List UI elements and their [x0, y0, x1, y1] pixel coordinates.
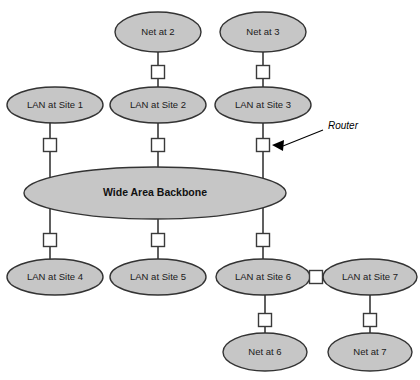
- node-net-at-6[interactable]: Net at 6: [223, 333, 307, 371]
- node-lan-at-site-7[interactable]: LAN at Site 7: [323, 259, 417, 295]
- net-at-3-label: Net at 3: [246, 26, 279, 37]
- network-diagram-canvas: Wide Area BackboneNet at 2Net at 3LAN at…: [0, 0, 420, 380]
- net-at-6-label: Net at 6: [248, 346, 281, 357]
- router-net2-lan2-icon[interactable]: [152, 66, 165, 79]
- node-lan-at-site-2[interactable]: LAN at Site 2: [110, 87, 206, 123]
- router-lan3-backbone-icon[interactable]: [257, 139, 270, 152]
- node-net-at-2[interactable]: Net at 2: [115, 12, 201, 52]
- router-lan6-net6-icon[interactable]: [259, 314, 272, 327]
- node-net-at-7[interactable]: Net at 7: [328, 333, 412, 371]
- net-at-2-label: Net at 2: [141, 26, 174, 37]
- node-lan-at-site-1[interactable]: LAN at Site 1: [7, 87, 103, 123]
- network-topology-diagram: Wide Area BackboneNet at 2Net at 3LAN at…: [0, 0, 420, 380]
- lan-at-site-3-label: LAN at Site 3: [235, 99, 291, 110]
- node-net-at-3[interactable]: Net at 3: [220, 12, 306, 52]
- lan-at-site-2-label: LAN at Site 2: [130, 99, 186, 110]
- router-lan1-backbone-icon[interactable]: [44, 139, 57, 152]
- router-backbone-lan5-icon[interactable]: [152, 234, 165, 247]
- router-net3-lan3-icon[interactable]: [257, 66, 270, 79]
- lan-at-site-6-label: LAN at Site 6: [235, 271, 291, 282]
- lan-at-site-5-label: LAN at Site 5: [130, 271, 186, 282]
- lan-at-site-7-label: LAN at Site 7: [342, 271, 398, 282]
- node-lan-at-site-3[interactable]: LAN at Site 3: [215, 87, 311, 123]
- router-annotation: Router: [272, 120, 359, 151]
- annotation-leader-line: [283, 130, 323, 146]
- node-lan-at-site-5[interactable]: LAN at Site 5: [110, 259, 206, 295]
- node-lan-at-site-4[interactable]: LAN at Site 4: [7, 259, 103, 295]
- annotation-arrow-icon: [272, 140, 284, 151]
- router-lan6-lan7-icon[interactable]: [310, 271, 323, 284]
- nodes-layer: Wide Area BackboneNet at 2Net at 3LAN at…: [7, 12, 417, 371]
- node-lan-at-site-6[interactable]: LAN at Site 6: [216, 259, 310, 295]
- annotation-label-router: Router: [328, 120, 359, 131]
- router-backbone-lan4-icon[interactable]: [44, 234, 57, 247]
- lan-at-site-4-label: LAN at Site 4: [27, 271, 83, 282]
- router-lan2-backbone-icon[interactable]: [152, 139, 165, 152]
- backbone-node[interactable]: Wide Area Backbone: [24, 167, 286, 219]
- annotations-layer: Router: [272, 120, 359, 151]
- router-lan7-net7-icon[interactable]: [364, 314, 377, 327]
- lan-at-site-1-label: LAN at Site 1: [27, 99, 83, 110]
- net-at-7-label: Net at 7: [353, 346, 386, 357]
- router-backbone-lan6-icon[interactable]: [257, 234, 270, 247]
- backbone-label: Wide Area Backbone: [103, 186, 207, 198]
